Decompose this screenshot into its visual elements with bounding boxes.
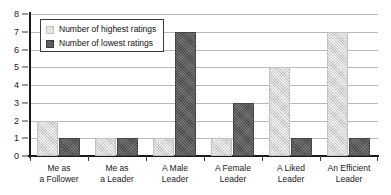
- x-axis-tick: [204, 156, 205, 161]
- y-axis-labels: 012345678: [0, 0, 30, 195]
- y-axis-tick-label: 0: [14, 152, 19, 161]
- x-axis-tick: [146, 156, 147, 161]
- y-axis-tick: [22, 31, 28, 32]
- x-axis-category-label: A FemaleLeader: [204, 163, 262, 184]
- y-axis-tick: [22, 120, 28, 121]
- x-axis-tick: [377, 156, 378, 161]
- y-axis-tick-label: 4: [14, 81, 19, 90]
- y-axis-tick: [22, 156, 28, 157]
- y-axis-tick: [22, 49, 28, 50]
- y-axis-tick: [22, 67, 28, 68]
- bar-highest: [95, 138, 116, 156]
- y-axis-tick: [22, 102, 28, 103]
- bar-lowest: [59, 138, 80, 156]
- x-axis-category-label: Me asa Leader: [88, 163, 146, 184]
- bar-highest: [269, 67, 290, 156]
- y-axis-tick-label: 3: [14, 98, 19, 107]
- bar-group: [262, 14, 320, 156]
- y-axis-tick: [22, 14, 28, 15]
- y-axis-tick: [22, 138, 28, 139]
- bar-group: [320, 14, 378, 156]
- x-axis-labels: Me asa FollowerMe asa LeaderA MaleLeader…: [30, 163, 378, 193]
- x-axis-category-label: An EfficientLeader: [320, 163, 378, 184]
- x-axis-tick: [30, 156, 31, 161]
- bar-lowest: [291, 138, 312, 156]
- legend-item-highest: Number of highest ratings: [46, 23, 159, 36]
- x-axis-tick: [88, 156, 89, 161]
- bar-highest: [327, 32, 348, 156]
- bar-lowest: [175, 32, 196, 156]
- y-axis-tick-label: 7: [14, 27, 19, 36]
- x-axis-category-label: Me asa Follower: [30, 163, 88, 184]
- bar-highest: [37, 121, 58, 157]
- legend-swatch-highest-icon: [46, 26, 54, 34]
- x-axis-tick: [262, 156, 263, 161]
- y-axis-tick: [22, 85, 28, 86]
- x-axis-category-label: A LikedLeader: [262, 163, 320, 184]
- x-axis-category-label: A MaleLeader: [146, 163, 204, 184]
- bar-chart: 012345678 Me asa FollowerMe asa LeaderA …: [0, 0, 391, 195]
- bar-highest: [153, 138, 174, 156]
- y-axis-tick-label: 1: [14, 134, 19, 143]
- bar-highest: [211, 138, 232, 156]
- legend-label-lowest: Number of lowest ratings: [59, 39, 153, 48]
- legend-item-lowest: Number of lowest ratings: [46, 37, 159, 50]
- chart-legend: Number of highest ratings Number of lowe…: [40, 19, 164, 52]
- y-axis-tick-label: 2: [14, 116, 19, 125]
- bar-group: [204, 14, 262, 156]
- legend-label-highest: Number of highest ratings: [59, 25, 156, 34]
- bar-lowest: [117, 138, 138, 156]
- x-axis-ticks: [30, 156, 378, 162]
- legend-swatch-lowest-icon: [46, 40, 54, 48]
- y-axis-tick-label: 8: [14, 10, 19, 19]
- bar-lowest: [233, 103, 254, 156]
- x-axis-tick: [320, 156, 321, 161]
- bar-lowest: [349, 138, 370, 156]
- y-axis-tick-label: 5: [14, 63, 19, 72]
- y-axis-tick-label: 6: [14, 45, 19, 54]
